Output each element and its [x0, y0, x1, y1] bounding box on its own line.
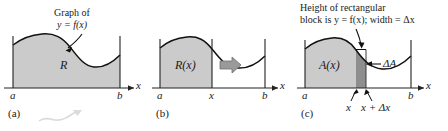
graph-of-label-line2: y = f(x)	[33, 20, 111, 31]
leader-arrow-a	[68, 34, 82, 48]
panel-label-b: (b)	[156, 108, 169, 120]
x-axis-arrowhead-a	[128, 85, 134, 91]
tick-label-x-c: x	[346, 102, 351, 114]
tick-label-b-c: b	[408, 90, 414, 102]
leader-arrowhead-block	[358, 42, 364, 49]
axis-label-x-b: x	[280, 80, 285, 92]
x-axis-arrowhead-b	[272, 85, 278, 91]
right-block-arrow-icon	[220, 57, 241, 73]
figure-area-under-curve: Graph of y = f(x) R a b x (a) R(x) a x b	[0, 0, 448, 131]
panel-label-a: (a)	[8, 108, 20, 120]
panel-b: R(x) a x b x (b)	[148, 0, 293, 131]
scan-artifact-scribble	[36, 108, 96, 128]
block-annotation-line2: block is y = f(x); width = Δx	[300, 15, 415, 26]
region-label-R: R	[60, 59, 67, 72]
axis-label-x-c: x	[426, 80, 431, 92]
strip-label-deltaA: ΔA	[383, 58, 396, 70]
region-label-Rx: R(x)	[175, 59, 196, 72]
tick-label-x-b: x	[209, 90, 214, 102]
tick-arrowhead-x	[353, 89, 359, 95]
block-annotation-line1: Height of rectangular	[300, 3, 386, 14]
graph-of-label-line1: Graph of	[33, 8, 111, 19]
panel-b-graphic	[148, 0, 293, 131]
tick-label-x-plus-dx: x + Δx	[361, 102, 390, 114]
axis-label-x-a: x	[136, 80, 141, 92]
panel-c: Height of rectangular block is y = f(x);…	[293, 0, 448, 131]
panel-label-c: (c)	[301, 108, 313, 120]
tick-label-a-c: a	[302, 90, 308, 102]
tick-label-a: a	[10, 90, 16, 102]
tick-label-b: b	[117, 90, 123, 102]
tick-label-b-b: b	[262, 90, 268, 102]
region-label-Ax: A(x)	[319, 59, 340, 72]
x-axis-arrowhead-c	[418, 85, 424, 91]
tick-label-a-b: a	[157, 90, 163, 102]
